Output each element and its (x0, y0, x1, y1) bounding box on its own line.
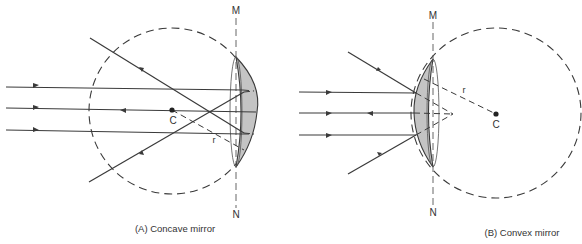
incident-ray-mid-a (6, 108, 256, 112)
caption-convex: (B) Convex mirror (485, 227, 560, 238)
arrow-icon (33, 105, 39, 110)
label-m-a: M (232, 5, 240, 16)
incident-ray-top-a (6, 87, 243, 90)
incident-ray-bottom-a (6, 130, 243, 134)
label-n-b: N (429, 207, 436, 218)
label-radius-b: r (463, 85, 466, 95)
reflected-ray-top-b (348, 52, 416, 93)
concave-mirror-figure: M N C r (A) Concave mirror (6, 5, 258, 234)
label-center-a: C (169, 115, 176, 126)
center-point-a (169, 107, 174, 112)
arrow-icon (120, 108, 126, 113)
caption-concave: (A) Concave mirror (135, 223, 215, 234)
mirror-diagram: M N C r (A) Concave mirror (0, 0, 582, 244)
label-radius-a: r (213, 135, 216, 145)
center-point-b (493, 111, 498, 116)
arrow-icon (33, 127, 39, 132)
reflected-ray-bottom-b (348, 135, 416, 174)
label-m-b: M (429, 10, 437, 21)
reflected-ray-top-a (90, 38, 244, 133)
label-center-b: C (492, 119, 499, 130)
convex-mirror-figure: M N C r (B) Convex mirror (299, 10, 581, 238)
radius-line-a (172, 110, 244, 150)
radius-line-b (424, 79, 496, 114)
incident-ray-top-b (299, 92, 416, 93)
label-n-a: N (232, 209, 239, 220)
